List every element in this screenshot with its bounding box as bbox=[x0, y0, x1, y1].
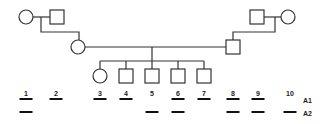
marker-number: 9 bbox=[256, 90, 260, 97]
grandmother-right-circle-symbol bbox=[281, 10, 295, 24]
allele-a2-band bbox=[172, 111, 185, 113]
allele-a2-band bbox=[20, 111, 33, 113]
allele-label-a2: A2 bbox=[303, 110, 312, 117]
mother-circle-symbol bbox=[71, 40, 85, 54]
child-1-circle-symbol bbox=[93, 69, 107, 83]
marker-number: 3 bbox=[98, 90, 102, 97]
allele-a1-band bbox=[172, 98, 185, 100]
pedigree-diagram: 12345678910 A1 A2 bbox=[0, 0, 330, 124]
father-square-symbol bbox=[226, 40, 240, 54]
grandmother-left-circle-symbol bbox=[19, 10, 33, 24]
allele-a1-band bbox=[50, 98, 63, 100]
marker-number: 2 bbox=[54, 90, 58, 97]
allele-a2-band bbox=[146, 111, 159, 113]
child-2-square-symbol bbox=[119, 69, 133, 83]
allele-a2-band bbox=[252, 111, 265, 113]
allele-a2-band bbox=[284, 111, 297, 113]
marker-number: 6 bbox=[176, 90, 180, 97]
allele-a1-band bbox=[94, 98, 107, 100]
child-5-square-symbol bbox=[197, 69, 211, 83]
grandfather-left-square-symbol bbox=[50, 10, 64, 24]
allele-label-a1: A1 bbox=[303, 97, 312, 104]
marker-number: 7 bbox=[202, 90, 206, 97]
allele-a2-band bbox=[227, 111, 240, 113]
marker-number: 1 bbox=[24, 90, 28, 97]
allele-a1-band bbox=[227, 98, 240, 100]
pedigree-chart bbox=[0, 0, 330, 124]
marker-number: 5 bbox=[150, 90, 154, 97]
child-3-square-symbol bbox=[145, 69, 159, 83]
allele-a1-band bbox=[120, 98, 133, 100]
marker-number: 8 bbox=[231, 90, 235, 97]
grandfather-right-square-symbol bbox=[250, 10, 264, 24]
marker-number: 10 bbox=[286, 90, 294, 97]
allele-a1-band bbox=[20, 98, 33, 100]
pedigree-lines bbox=[33, 17, 281, 69]
allele-a1-band bbox=[198, 98, 211, 100]
child-4-square-symbol bbox=[171, 69, 185, 83]
marker-number: 4 bbox=[124, 90, 128, 97]
allele-a1-band bbox=[252, 98, 265, 100]
